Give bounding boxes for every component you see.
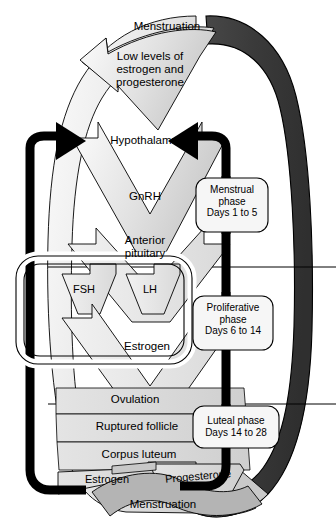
callout-menstrual-phase[interactable]: Menstrual phase Days 1 to 5	[196, 184, 268, 219]
callout-luteal-phase[interactable]: Luteal phase Days 14 to 28	[193, 415, 279, 438]
menstrual-cycle-diagram: Menstruation Low levels of estrogen and …	[0, 0, 336, 526]
feedback-arrowhead-right	[168, 122, 198, 160]
callout-proliferative-phase[interactable]: Proliferative phase Days 6 to 14	[193, 302, 273, 337]
feedback-loop-left-top	[30, 136, 58, 148]
diagram-canvas	[0, 0, 336, 526]
